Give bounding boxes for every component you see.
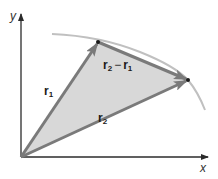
diff-b-sub: 1 <box>128 64 132 73</box>
point-2 <box>186 78 190 82</box>
label-r2-minus-r1: r2−r1 <box>103 59 132 75</box>
label-r2: r2 <box>98 112 107 128</box>
diagram-canvas <box>0 0 218 179</box>
label-r1: r1 <box>44 85 53 101</box>
point-1 <box>96 40 100 44</box>
r1-sub: 1 <box>49 90 53 99</box>
minus-sign: − <box>112 58 123 72</box>
x-axis-label: x <box>200 162 206 174</box>
y-axis-label: y <box>10 10 16 22</box>
r2-sub: 2 <box>103 117 107 126</box>
position-vector-diagram: y x r1 r2 r2−r1 <box>0 0 218 179</box>
